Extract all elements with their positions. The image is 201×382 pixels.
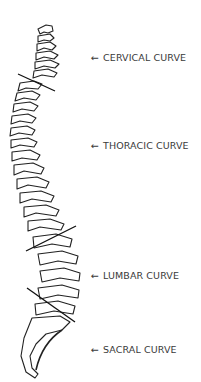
label-thoracic-curve: ←THORACIC CURVE [91, 140, 189, 151]
left-arrow-icon: ← [91, 344, 99, 355]
left-arrow-icon: ← [91, 52, 99, 63]
thoracic-vertebrae [10, 81, 64, 231]
sacrum [21, 316, 70, 378]
label-cervical-curve: ←CERVICAL CURVE [91, 52, 186, 63]
left-arrow-icon: ← [91, 140, 99, 151]
curve-boundaries [18, 74, 76, 322]
cervical-vertebrae [33, 25, 59, 78]
label-lumbar-curve: ←LUMBAR CURVE [91, 270, 179, 281]
lumbar-vertebrae [33, 234, 80, 315]
left-arrow-icon: ← [91, 270, 99, 281]
label-sacral-curve: ←SACRAL CURVE [91, 344, 177, 355]
